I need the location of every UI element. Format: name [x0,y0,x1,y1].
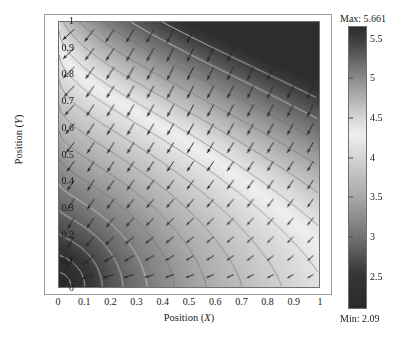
x-tick-label: 0.6 [209,297,222,307]
colorbar-tick-mark [348,197,353,198]
y-axis-title-suffix: ) [13,115,24,119]
y-tick-label: 0.1 [62,256,75,266]
colorbar-tick-label: 3.5 [370,192,383,202]
colorbar-min-label: Min: 2.09 [340,313,379,324]
colorbar-tick-label: 5 [370,73,375,83]
colorbar-max-label: Max: 5.661 [340,13,386,24]
colorbar-tick-label: 2.5 [370,272,383,282]
x-tick-label: 0.2 [104,297,117,307]
y-axis-title: Position (Y) [13,60,24,220]
y-tick-label: 0.7 [62,96,75,106]
x-tick-label: 0.9 [288,297,301,307]
x-tick-label: 0.1 [78,297,91,307]
colorbar-tick-label: 3 [370,232,375,242]
colorbar-tick-label: 4.5 [370,113,383,123]
colorbar[interactable] [348,26,367,309]
y-axis-title-prefix: Position ( [13,124,24,165]
plot-area[interactable] [58,21,320,288]
colorbar-tick-label: 5.5 [370,34,383,44]
y-tick-label: 1 [69,16,74,26]
colorbar-tick-mark [348,236,353,237]
x-axis-title-suffix: ) [211,312,215,323]
x-tick-label: 0.8 [261,297,274,307]
y-tick-label: 0.6 [62,123,75,133]
colorbar-tick-mark [348,78,353,79]
heatmap-vector-field-canvas[interactable] [59,22,319,287]
y-tick-label: 0.9 [62,43,75,53]
y-tick-label: 0.8 [62,69,75,79]
figure-container: 00.10.20.30.40.50.60.70.80.91 00.10.20.3… [0,0,411,344]
colorbar-tick-mark [348,118,353,119]
colorbar-tick-mark [348,276,353,277]
y-tick-label: 0.4 [62,176,75,186]
x-axis-title: Position (X) [58,312,320,323]
x-tick-label: 0.7 [235,297,248,307]
y-tick-label: 0 [69,283,74,293]
y-tick-label: 0.5 [62,150,75,160]
y-axis-title-symbol: Y [13,118,24,124]
colorbar-gradient [348,26,367,309]
x-tick-label: 0.3 [130,297,143,307]
x-tick-label: 0.5 [183,297,196,307]
x-axis-title-prefix: Position ( [164,312,205,323]
colorbar-tick-mark [348,157,353,158]
x-tick-label: 0.4 [157,297,170,307]
colorbar-tick-mark [348,38,353,39]
y-tick-label: 0.3 [62,203,75,213]
x-tick-label: 1 [318,297,323,307]
x-tick-label: 0 [56,297,61,307]
colorbar-tick-label: 4 [370,153,375,163]
y-tick-label: 0.2 [62,230,75,240]
